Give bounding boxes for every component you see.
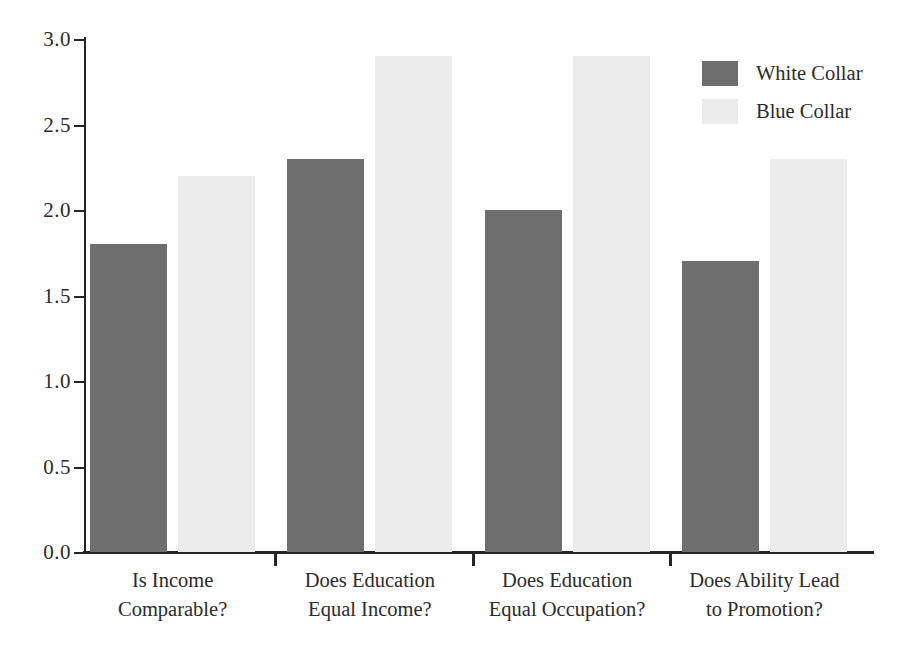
y-tick-label: 3.0: [43, 27, 71, 52]
bar: [770, 159, 847, 552]
bar: [178, 176, 255, 552]
legend-swatch-white-collar: [702, 61, 738, 86]
legend: White Collar Blue Collar: [702, 54, 862, 130]
y-tick-mark: [74, 381, 85, 383]
legend-item-white-collar: White Collar: [702, 54, 862, 92]
bar: [682, 261, 759, 552]
bar: [375, 56, 452, 552]
y-tick-mark: [74, 210, 85, 212]
legend-label-white-collar: White Collar: [756, 62, 862, 85]
y-tick-label: 2.5: [43, 112, 71, 137]
x-axis-separator-tick: [274, 551, 277, 566]
y-tick-mark: [74, 467, 85, 469]
x-axis-label: Does Ability Lead to Promotion?: [666, 566, 863, 624]
bar: [90, 244, 167, 552]
x-axis-separator-tick: [472, 551, 475, 566]
y-tick-label: 1.0: [43, 369, 71, 394]
bar: [573, 56, 650, 552]
legend-swatch-blue-collar: [702, 99, 738, 124]
y-tick-mark: [74, 296, 85, 298]
y-tick-label: 0.0: [43, 540, 71, 565]
bar-chart: 0.00.51.01.52.02.53.0 Is Income Comparab…: [0, 0, 915, 647]
legend-item-blue-collar: Blue Collar: [702, 92, 862, 130]
y-tick-label: 2.0: [43, 198, 71, 223]
x-axis-label: Is Income Comparable?: [74, 566, 271, 624]
x-axis-separator-tick: [669, 551, 672, 566]
y-tick-label: 1.5: [43, 283, 71, 308]
y-tick-label: 0.5: [43, 454, 71, 479]
y-tick-mark: [74, 552, 85, 554]
x-axis-label: Does Education Equal Income?: [271, 566, 468, 624]
legend-label-blue-collar: Blue Collar: [756, 100, 851, 123]
bar: [485, 210, 562, 552]
x-axis-label: Does Education Equal Occupation?: [469, 566, 666, 624]
y-tick-mark: [74, 39, 85, 41]
bar: [287, 159, 364, 552]
y-tick-mark: [74, 125, 85, 127]
